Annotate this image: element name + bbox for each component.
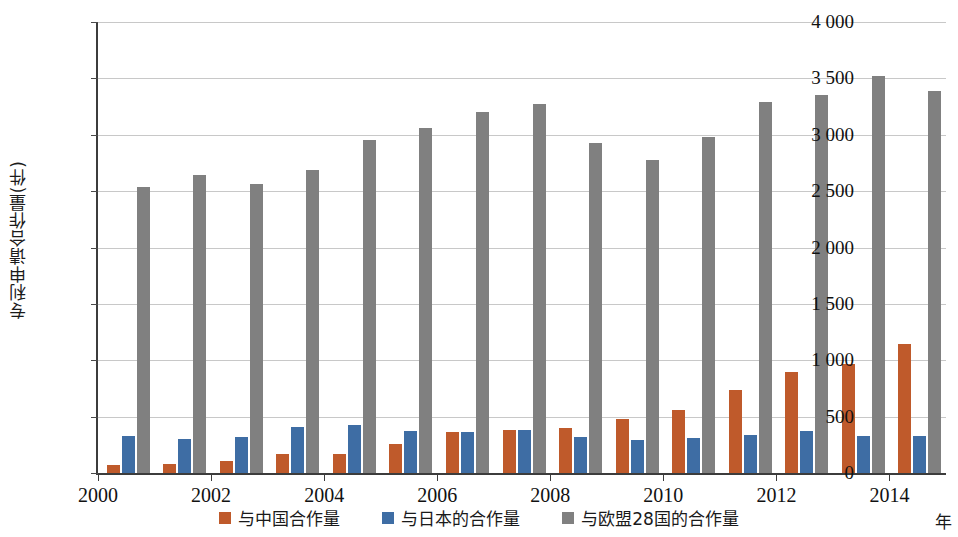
y-axis-tick-label: 0 — [784, 462, 854, 484]
y-axis-tick — [91, 248, 98, 249]
y-axis-tick — [91, 22, 98, 23]
bar — [616, 419, 629, 473]
bar — [631, 440, 644, 473]
x-axis-tick-label: 2000 — [53, 484, 143, 507]
bar-group — [389, 22, 432, 473]
bar — [559, 428, 572, 473]
bar — [872, 76, 885, 473]
bar — [928, 91, 941, 473]
y-axis-tick — [91, 78, 98, 79]
bar — [137, 187, 150, 473]
bar — [291, 427, 304, 473]
legend: 与中国合作量与日本的合作量与欧盟28国的合作量 — [0, 505, 958, 530]
bar-group — [503, 22, 546, 473]
x-axis-title: 年 — [935, 508, 952, 533]
y-axis-tick-label: 1 500 — [784, 293, 854, 315]
bar-group — [898, 22, 941, 473]
y-axis-tick — [91, 473, 98, 474]
bar — [107, 465, 120, 473]
bar — [518, 430, 531, 473]
bar — [163, 464, 176, 473]
legend-swatch — [382, 512, 394, 524]
bar-group — [276, 22, 319, 473]
bar — [702, 137, 715, 473]
bar-group — [107, 22, 150, 473]
bar — [178, 439, 191, 473]
y-axis-tick-label: 4 000 — [784, 11, 854, 33]
bar-group — [446, 22, 489, 473]
x-axis-tick — [776, 473, 777, 481]
bar — [348, 425, 361, 473]
x-axis-tick — [437, 473, 438, 481]
y-axis-tick-label: 3 500 — [784, 67, 854, 89]
bar — [404, 431, 417, 473]
bar — [461, 432, 474, 473]
x-axis-tick — [98, 473, 99, 481]
bar — [913, 436, 926, 473]
bar — [729, 390, 742, 473]
bar — [476, 112, 489, 473]
y-axis-tick-label: 1 000 — [784, 349, 854, 371]
bar-group — [559, 22, 602, 473]
x-axis-tick — [324, 473, 325, 481]
x-axis-tick — [550, 473, 551, 481]
legend-item: 与欧盟28国的合作量 — [562, 505, 739, 530]
bar — [363, 140, 376, 473]
legend-item: 与日本的合作量 — [382, 505, 520, 530]
legend-label: 与日本的合作量 — [401, 505, 520, 530]
y-axis-title-text: 专利申请合作量(件) — [5, 160, 30, 319]
bar — [220, 461, 233, 473]
bar — [306, 170, 319, 473]
y-axis-tick-label: 2 000 — [784, 237, 854, 259]
bar-group — [220, 22, 263, 473]
bar — [857, 436, 870, 473]
x-axis-tick-label: 2006 — [392, 484, 482, 507]
bar — [503, 430, 516, 473]
bar-group — [616, 22, 659, 473]
bar — [446, 432, 459, 473]
y-axis-tick-label: 500 — [784, 406, 854, 428]
bar — [687, 438, 700, 473]
bar — [646, 160, 659, 473]
legend-label: 与欧盟28国的合作量 — [581, 505, 739, 530]
bar — [193, 175, 206, 473]
y-axis-title: 专利申请合作量(件) — [2, 0, 32, 480]
y-axis-tick-label: 2 500 — [784, 180, 854, 202]
x-axis-tick — [211, 473, 212, 481]
y-axis-tick — [91, 417, 98, 418]
y-axis-tick — [91, 304, 98, 305]
x-axis-tick-label: 2012 — [731, 484, 821, 507]
y-axis-tick — [91, 360, 98, 361]
bar — [744, 435, 757, 473]
bar — [235, 437, 248, 473]
bar — [250, 184, 263, 473]
bar — [333, 454, 346, 473]
bar — [574, 437, 587, 473]
legend-item: 与中国合作量 — [219, 505, 340, 530]
bar-group — [163, 22, 206, 473]
bar — [419, 128, 432, 473]
x-axis-tick-label: 2002 — [166, 484, 256, 507]
legend-swatch — [562, 512, 574, 524]
bar — [589, 143, 602, 473]
y-axis-tick-label: 3 000 — [784, 124, 854, 146]
bar — [389, 444, 402, 473]
x-axis-tick-label: 2004 — [279, 484, 369, 507]
x-axis-tick-label: 2010 — [618, 484, 708, 507]
bar-group — [333, 22, 376, 473]
x-axis-tick — [889, 473, 890, 481]
x-axis-tick — [663, 473, 664, 481]
bar — [898, 344, 911, 473]
y-axis-tick — [91, 191, 98, 192]
x-axis-tick-label: 2014 — [844, 484, 934, 507]
bar — [533, 104, 546, 473]
bar-group — [729, 22, 772, 473]
bar — [672, 410, 685, 473]
y-axis-tick — [91, 135, 98, 136]
bar — [759, 102, 772, 474]
x-axis-tick-label: 2008 — [505, 484, 595, 507]
legend-label: 与中国合作量 — [238, 505, 340, 530]
patent-cooperation-bar-chart: 专利申请合作量(件) 20002002200420062008201020122… — [0, 0, 958, 537]
legend-swatch — [219, 512, 231, 524]
bar-group — [672, 22, 715, 473]
